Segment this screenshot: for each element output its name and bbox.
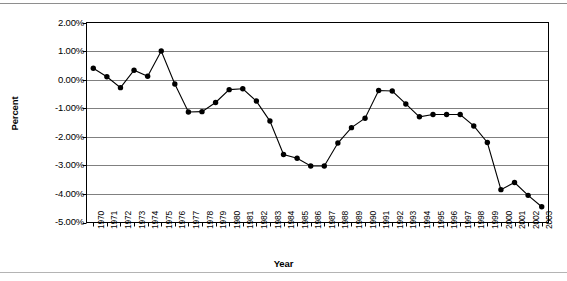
x-tick-label: 1971 bbox=[110, 210, 119, 228]
data-point bbox=[322, 163, 327, 168]
data-point bbox=[131, 68, 136, 73]
data-point bbox=[335, 140, 340, 145]
x-tick-label: 1995 bbox=[437, 210, 446, 228]
x-tick-label: 1973 bbox=[138, 210, 147, 228]
data-point bbox=[376, 88, 381, 93]
plot-area bbox=[0, 0, 567, 281]
x-tick-label: 1970 bbox=[97, 210, 106, 228]
data-point bbox=[145, 74, 150, 79]
data-point bbox=[199, 109, 204, 114]
data-point bbox=[172, 81, 177, 86]
data-point bbox=[267, 118, 272, 123]
x-tick-label: 1993 bbox=[409, 210, 418, 228]
x-tick-label: 1976 bbox=[178, 210, 187, 228]
x-tick-label: 1986 bbox=[314, 210, 323, 228]
data-point bbox=[457, 112, 462, 117]
data-point bbox=[186, 109, 191, 114]
data-point bbox=[485, 140, 490, 145]
data-point bbox=[362, 116, 367, 121]
gridlines bbox=[87, 52, 549, 195]
x-tick-label: 1983 bbox=[274, 210, 283, 228]
x-tick-label: 1992 bbox=[396, 210, 405, 228]
x-tick-label: 1982 bbox=[260, 210, 269, 228]
x-tick-label: 2000 bbox=[505, 210, 514, 228]
data-point bbox=[471, 123, 476, 128]
data-line-percent bbox=[93, 51, 541, 207]
data-point bbox=[539, 204, 544, 209]
data-point bbox=[444, 112, 449, 117]
data-point bbox=[226, 87, 231, 92]
x-tick-label: 1985 bbox=[301, 210, 310, 228]
x-tick-label: 2003 bbox=[545, 210, 554, 228]
x-tick-label: 1984 bbox=[287, 210, 296, 228]
x-tick-label: 1981 bbox=[246, 210, 255, 228]
x-tick-label: 1974 bbox=[151, 210, 160, 228]
x-tick-label: 1997 bbox=[464, 210, 473, 228]
x-tick-label: 1987 bbox=[328, 210, 337, 228]
x-tick-label: 1978 bbox=[206, 210, 215, 228]
plot-frame bbox=[87, 23, 549, 223]
data-point bbox=[240, 86, 245, 91]
x-tick-label: 2001 bbox=[518, 210, 527, 228]
x-tick-label: 1975 bbox=[165, 210, 174, 228]
x-tick-label: 1979 bbox=[219, 210, 228, 228]
percent-by-year-line-chart: Percent 2.00% 1.00% 0.00% -1.00% -2.00% … bbox=[0, 0, 567, 281]
data-point bbox=[159, 48, 164, 53]
data-point bbox=[417, 114, 422, 119]
data-point bbox=[498, 187, 503, 192]
x-tick-label: 1998 bbox=[477, 210, 486, 228]
data-point bbox=[294, 156, 299, 161]
x-tick-label: 1999 bbox=[491, 210, 500, 228]
x-tick-label: 1977 bbox=[192, 210, 201, 228]
x-tick-label: 1990 bbox=[369, 210, 378, 228]
x-tick-label: 1980 bbox=[233, 210, 242, 228]
data-point bbox=[281, 152, 286, 157]
x-tick-label: 1988 bbox=[341, 210, 350, 228]
data-point bbox=[118, 85, 123, 90]
x-tick-label: 1994 bbox=[423, 210, 432, 228]
data-point bbox=[308, 163, 313, 168]
data-point bbox=[525, 193, 530, 198]
data-point bbox=[213, 100, 218, 105]
x-tick-label: 1991 bbox=[382, 210, 391, 228]
data-point bbox=[403, 101, 408, 106]
data-point bbox=[104, 74, 109, 79]
x-tick-label: 1996 bbox=[450, 210, 459, 228]
x-tick-label: 1989 bbox=[355, 210, 364, 228]
x-axis-title: Year bbox=[0, 258, 567, 269]
data-point bbox=[349, 125, 354, 130]
data-point bbox=[390, 88, 395, 93]
data-point bbox=[91, 66, 96, 71]
data-point bbox=[430, 112, 435, 117]
data-point bbox=[512, 180, 517, 185]
page-divider-bottom bbox=[0, 272, 567, 273]
data-point bbox=[254, 98, 259, 103]
x-tick-label: 2002 bbox=[532, 210, 541, 228]
x-tick-label: 1972 bbox=[124, 210, 133, 228]
